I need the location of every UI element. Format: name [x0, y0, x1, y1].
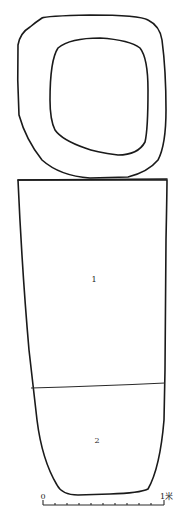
section-divider — [31, 383, 165, 388]
scale-end-label: 1米 — [160, 491, 173, 501]
tomb-plan-drawing: 1 2 0 1米 — [0, 0, 188, 527]
scale-start-label: 0 — [40, 492, 45, 501]
scale-bar: 0 1米 — [40, 491, 173, 505]
chamber-top-edge — [18, 179, 167, 180]
section-2-label: 2 — [94, 436, 99, 445]
outer-ring — [18, 15, 166, 178]
section-1-label: 1 — [91, 275, 96, 284]
inner-ring — [50, 38, 148, 155]
chamber-outline — [18, 180, 167, 495]
